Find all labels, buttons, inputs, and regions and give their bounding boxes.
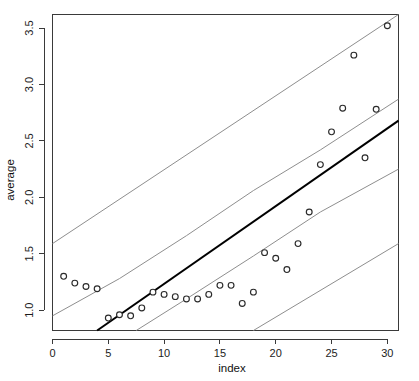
- data-point: [206, 291, 212, 297]
- data-point: [228, 282, 234, 288]
- data-point: [373, 106, 379, 112]
- y-tick-label-2.0: 2.0: [23, 190, 35, 205]
- x-tick-label-30: 30: [381, 347, 393, 359]
- confidence-band-group: [53, 15, 399, 331]
- data-point: [284, 267, 290, 273]
- x-axis-title: index: [218, 362, 246, 374]
- data-point: [61, 273, 67, 279]
- plot-panel-border: [53, 15, 399, 331]
- data-point: [117, 312, 123, 318]
- data-point: [251, 289, 257, 295]
- confidence-band-4: [136, 169, 398, 330]
- regression-line: [97, 121, 398, 331]
- x-tick-label-20: 20: [270, 347, 282, 359]
- data-point: [83, 284, 89, 290]
- data-point: [184, 296, 190, 302]
- data-point: [329, 129, 335, 135]
- plot-frame-group: [53, 15, 399, 331]
- data-point: [72, 280, 78, 286]
- regression-line-group: [97, 121, 398, 331]
- data-point: [150, 289, 156, 295]
- y-tick-label-3.5: 3.5: [23, 20, 35, 35]
- y-tick-label-1.0: 1.0: [23, 303, 35, 318]
- data-point: [105, 315, 111, 321]
- data-point: [295, 241, 301, 247]
- x-tick-label-15: 15: [214, 347, 226, 359]
- x-axis-group: 051015202530: [49, 339, 393, 359]
- x-tick-label-0: 0: [49, 347, 55, 359]
- y-axis-title: average: [4, 159, 16, 201]
- data-point-group: [61, 23, 390, 321]
- data-point: [317, 162, 323, 168]
- data-point: [384, 23, 390, 29]
- data-point: [139, 305, 145, 311]
- axis-title-group: index average: [4, 159, 246, 374]
- data-point: [273, 255, 279, 261]
- y-axis-group: 1.01.52.02.53.03.5: [23, 20, 44, 317]
- data-point: [94, 286, 100, 292]
- data-point: [239, 301, 245, 307]
- data-point: [340, 105, 346, 111]
- confidence-band-3: [53, 99, 399, 316]
- x-tick-label-5: 5: [105, 347, 111, 359]
- y-tick-label-3.0: 3.0: [23, 77, 35, 92]
- data-point: [262, 250, 268, 256]
- y-tick-label-1.5: 1.5: [23, 246, 35, 261]
- scatter-plot-figure: 051015202530 1.01.52.02.53.03.5 index av…: [0, 0, 419, 381]
- x-tick-label-10: 10: [158, 347, 170, 359]
- data-point: [351, 52, 357, 58]
- data-point: [195, 296, 201, 302]
- chart-canvas: 051015202530 1.01.52.02.53.03.5 index av…: [0, 0, 419, 381]
- data-point: [128, 313, 134, 319]
- data-point: [362, 155, 368, 161]
- data-point: [172, 294, 178, 300]
- x-tick-label-25: 25: [325, 347, 337, 359]
- data-point: [306, 209, 312, 215]
- data-point: [161, 291, 167, 297]
- data-point: [217, 282, 223, 288]
- y-tick-label-2.5: 2.5: [23, 133, 35, 148]
